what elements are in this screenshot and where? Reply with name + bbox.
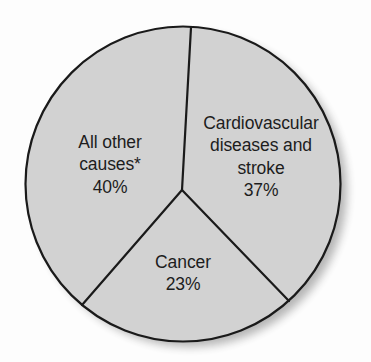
- slice-label-line-2: causes*: [48, 153, 172, 175]
- slice-label-cardiovascular: Cardiovascular diseases and stroke 37%: [186, 112, 336, 202]
- slice-label-line-3: stroke: [186, 157, 336, 179]
- pie-chart-figure: Cardiovascular diseases and stroke 37% A…: [0, 0, 371, 362]
- slice-label-cancer: Cancer 23%: [121, 251, 245, 296]
- slice-label-line-1: Cardiovascular: [186, 112, 336, 134]
- slice-percent-all-other-causes: 40%: [48, 176, 172, 198]
- slice-label-line-2: diseases and: [186, 134, 336, 156]
- slice-percent-cardiovascular: 37%: [186, 179, 336, 201]
- slice-label-all-other-causes: All other causes* 40%: [48, 131, 172, 198]
- slice-percent-cancer: 23%: [121, 273, 245, 295]
- slice-label-line-1: Cancer: [121, 251, 245, 273]
- slice-label-line-1: All other: [48, 131, 172, 153]
